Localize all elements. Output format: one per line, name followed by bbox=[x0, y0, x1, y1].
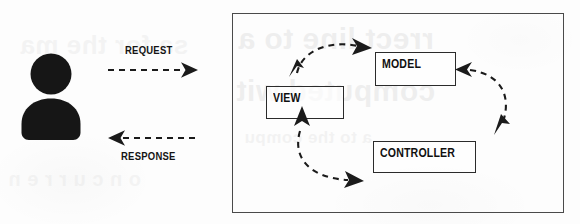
ghost-text-line: o n c u r r e n bbox=[8, 168, 141, 191]
request-flow-label: REQUEST bbox=[125, 44, 173, 56]
request-flow-arrow bbox=[103, 59, 203, 81]
component-label-view: VIEW bbox=[273, 91, 301, 105]
response-flow-label: RESPONSE bbox=[121, 150, 176, 162]
component-label-model: MODEL bbox=[382, 57, 421, 71]
user-silhouette-icon bbox=[15, 52, 87, 140]
response-flow-arrow bbox=[103, 127, 203, 149]
component-box-controller: CONTROLLER bbox=[373, 141, 476, 173]
mvc-diagram: rrect line to a computed wit a to the co… bbox=[0, 0, 580, 224]
component-box-model: MODEL bbox=[375, 52, 456, 86]
component-label-controller: CONTROLLER bbox=[380, 146, 455, 160]
component-box-view: VIEW bbox=[266, 86, 344, 119]
